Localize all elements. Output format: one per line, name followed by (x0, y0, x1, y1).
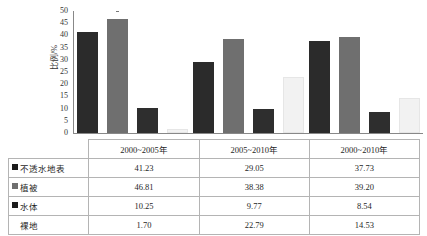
y-axis-tick-label: 5 (64, 117, 68, 125)
table-column-header: 2000~2005年 (89, 140, 199, 159)
table-row-label: 不透水地表 (9, 159, 89, 178)
table-row: 裸地1.7022.7914.53 (9, 216, 420, 235)
bar (193, 62, 214, 133)
table-cell-value: 29.05 (199, 159, 309, 178)
table-row-label: 裸地 (9, 216, 89, 235)
series-name: 水体 (20, 202, 38, 212)
bar (223, 39, 244, 133)
series-name: 不透水地表 (20, 164, 65, 174)
y-axis-tick-label: 35 (60, 44, 68, 52)
bar (283, 77, 304, 133)
table-header-row: 2000~2005年2005~2010年2000~2010年 (9, 140, 420, 159)
y-axis-tick-label: 15 (60, 92, 68, 100)
bar (253, 109, 274, 133)
table-column-header: 2000~2010年 (309, 140, 419, 159)
table-cell-value: 10.25 (89, 197, 199, 216)
y-axis-tick-label: 45 (60, 19, 68, 27)
table-cell-value: 1.70 (89, 216, 199, 235)
table-cell-value: 37.73 (309, 159, 419, 178)
legend-swatch-icon (12, 183, 18, 189)
table-cell-value: 46.81 (89, 178, 199, 197)
table-cell-value: 9.77 (199, 197, 309, 216)
bars-layer (74, 11, 423, 133)
data-table: 2000~2005年2005~2010年2000~2010年不透水地表41.23… (8, 139, 420, 235)
bar (399, 98, 420, 133)
table-column-header: 2005~2010年 (199, 140, 309, 159)
y-axis-tick-label: 25 (60, 68, 68, 76)
y-axis-tick-labels: 50454035302520151050 (46, 11, 70, 133)
bar (309, 41, 330, 133)
bar (167, 129, 188, 133)
bar (77, 32, 98, 133)
table-row: 不透水地表41.2329.0537.73 (9, 159, 420, 178)
table-cell-value: 22.79 (199, 216, 309, 235)
table-cell-value: 41.23 (89, 159, 199, 178)
y-axis-tick-label: 50 (60, 7, 68, 15)
y-axis-tick-label: 40 (60, 31, 68, 39)
y-axis-tick-label: 0 (64, 129, 68, 137)
plot-area: 比例/% 50454035302520151050 (0, 0, 427, 140)
table-header-corner (9, 140, 89, 159)
y-axis-tick-label: 10 (60, 105, 68, 113)
table-row-label: 植被 (9, 178, 89, 197)
y-axis-tick-label: 20 (60, 80, 68, 88)
series-name: 植被 (20, 183, 38, 193)
legend-swatch-icon (12, 202, 18, 208)
bar-group (74, 11, 190, 133)
table-row: 水体10.259.778.54 (9, 197, 420, 216)
legend-swatch-icon (12, 164, 18, 170)
bar (137, 108, 158, 133)
bar-group (190, 11, 306, 133)
bar (107, 19, 128, 133)
bar (369, 112, 390, 133)
series-name: 裸地 (20, 221, 38, 231)
table-cell-value: 39.20 (309, 178, 419, 197)
table-row-label: 水体 (9, 197, 89, 216)
x-axis-line (73, 133, 423, 134)
table-cell-value: 38.38 (199, 178, 309, 197)
bar (339, 37, 360, 133)
table-cell-value: 14.53 (309, 216, 419, 235)
table-row: 植被46.8138.3839.20 (9, 178, 420, 197)
bar-chart-with-data-table: 比例/% 50454035302520151050 2000~2005年2005… (0, 0, 427, 236)
y-axis-tick-label: 30 (60, 56, 68, 64)
table-cell-value: 8.54 (309, 197, 419, 216)
bar-group (307, 11, 423, 133)
